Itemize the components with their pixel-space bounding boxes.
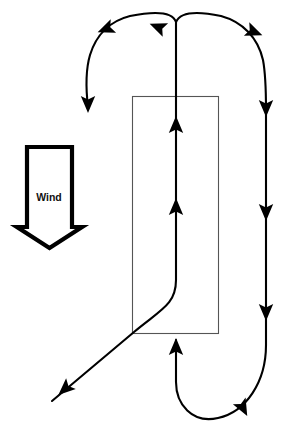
diagram-canvas: Wind [0,0,286,434]
arrow-top-right-inbound [147,17,168,37]
wind-label: Wind [36,191,62,203]
arrow-bottom-u-turn [233,398,254,420]
track-leg-bottom-u-turn [176,340,266,419]
search-pattern-diagram: Wind [0,0,286,434]
wind-indicator: Wind [17,147,82,248]
